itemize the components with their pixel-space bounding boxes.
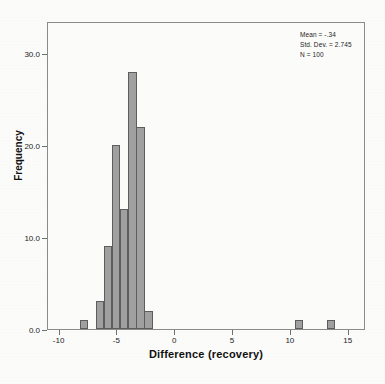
histogram-bar [104, 246, 112, 329]
histogram-bar [327, 320, 335, 329]
x-axis-tick-label: 5 [230, 336, 234, 345]
n-label: N = 100 [300, 50, 352, 60]
histogram-bar [112, 145, 120, 329]
y-axis-tick-label: 30.0 [24, 50, 40, 59]
histogram-bar [295, 320, 303, 329]
x-axis-tick-label: 10 [285, 336, 294, 345]
histogram-bar [120, 209, 128, 329]
histogram-bar [128, 72, 136, 329]
x-axis-tick-label: -10 [53, 336, 65, 345]
std-dev-label: Std. Dev. = 2.745 [300, 40, 352, 50]
x-axis-tick-label: -5 [113, 336, 120, 345]
x-axis-tick [290, 330, 291, 335]
x-axis-tick [348, 330, 349, 335]
x-axis: -10-5051015 [47, 330, 365, 350]
bars-layer [48, 23, 364, 329]
x-axis-tick [59, 330, 60, 335]
histogram-bar [136, 127, 144, 329]
x-axis-tick [232, 330, 233, 335]
y-axis-tick-label: 0.0 [29, 326, 40, 335]
mean-label: Mean = -.34 [300, 30, 352, 40]
y-axis: 0.010.020.030.0 [0, 22, 47, 330]
histogram-figure: 0.010.020.030.0 -10-5051015 Difference (… [0, 0, 385, 384]
histogram-bar [144, 311, 152, 329]
y-axis-tick-label: 20.0 [24, 142, 40, 151]
plot-area [47, 22, 365, 330]
y-axis-label: Frequency [13, 96, 24, 216]
y-axis-tick [42, 146, 47, 147]
x-axis-tick [116, 330, 117, 335]
statistics-annotation: Mean = -.34 Std. Dev. = 2.745 N = 100 [300, 30, 352, 60]
x-axis-tick [174, 330, 175, 335]
histogram-bar [80, 320, 88, 329]
x-axis-tick-label: 15 [343, 336, 352, 345]
y-axis-tick [42, 54, 47, 55]
y-axis-tick [42, 238, 47, 239]
y-axis-tick-label: 10.0 [24, 234, 40, 243]
histogram-bar [96, 301, 104, 329]
x-axis-tick-label: 0 [172, 336, 176, 345]
x-axis-label: Difference (recovery) [47, 348, 365, 360]
